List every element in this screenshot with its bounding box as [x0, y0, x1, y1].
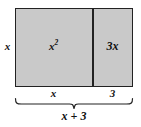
- total-width-label: x + 3: [15, 110, 133, 122]
- region-label-x-squared: x2: [15, 41, 92, 52]
- region-label-3x: 3x: [92, 40, 133, 52]
- height-dimension-label: x: [0, 41, 15, 52]
- area-model-figure: x x2 3x x 3 x + 3: [0, 0, 141, 127]
- x-squared-exponent: 2: [54, 38, 58, 47]
